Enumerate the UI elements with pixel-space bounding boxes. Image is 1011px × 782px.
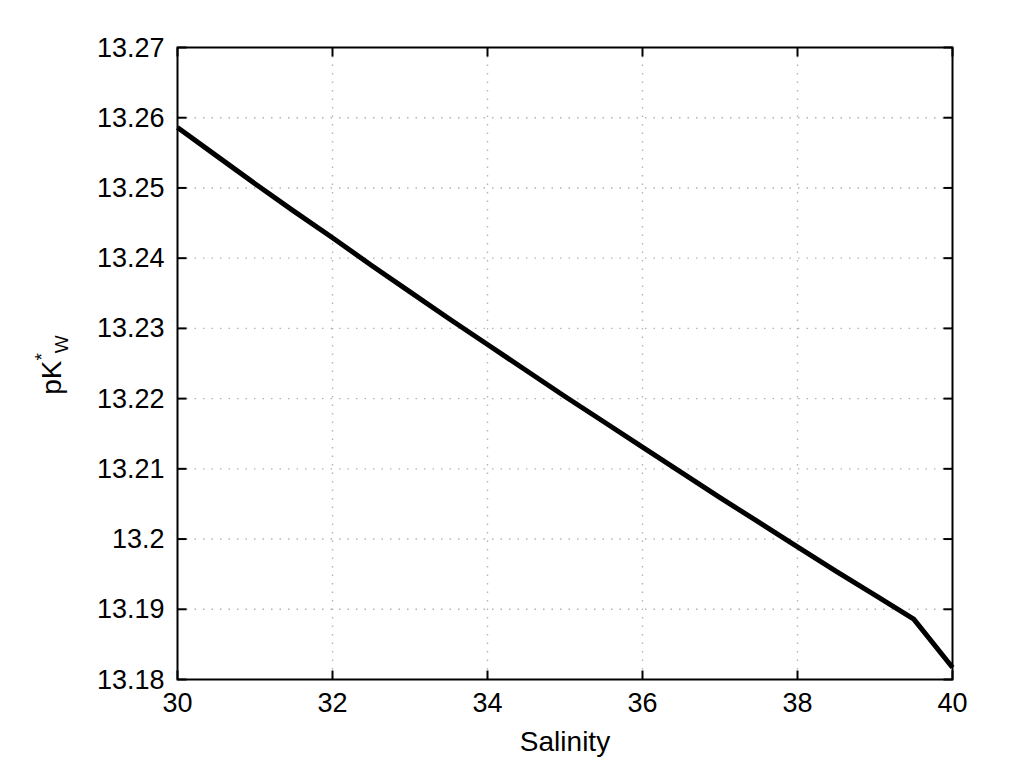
grid-lines: [178, 48, 953, 680]
x-tick-label: 38: [782, 690, 812, 717]
figure-canvas: 13.1813.1913.213.2113.2213.2313.2413.251…: [0, 0, 1011, 782]
x-tick-label: 36: [627, 690, 657, 717]
axes-box: [178, 48, 953, 680]
y-axis-title-subscript: W: [51, 335, 72, 353]
y-axis-title-superscript: *: [31, 353, 52, 360]
y-tick-label: 13.2: [112, 526, 165, 553]
y-tick-label: 13.21: [97, 455, 165, 482]
y-tick-label: 13.23: [97, 315, 165, 342]
y-axis-title: pK*W: [31, 335, 73, 395]
y-tick-label: 13.26: [97, 104, 165, 131]
x-tick-label: 40: [937, 690, 967, 717]
x-tick-label: 34: [472, 690, 502, 717]
y-tick-label: 13.18: [97, 666, 165, 693]
y-tick-label: 13.24: [97, 245, 165, 272]
y-tick-label: 13.19: [97, 596, 165, 623]
data-series-line: [178, 128, 953, 668]
y-tick-label: 13.27: [97, 34, 165, 61]
y-axis-title-base: pK: [36, 361, 67, 395]
x-axis-title: Salinity: [520, 726, 610, 758]
y-tick-label: 13.22: [97, 385, 165, 412]
x-tick-label: 30: [162, 690, 192, 717]
x-tick-label: 32: [317, 690, 347, 717]
y-tick-label: 13.25: [97, 174, 165, 201]
tick-marks: [178, 48, 953, 680]
